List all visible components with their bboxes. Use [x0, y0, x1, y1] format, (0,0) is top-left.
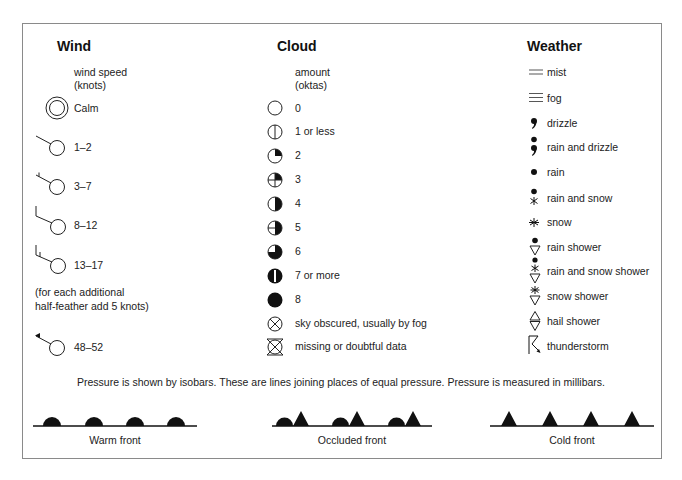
- wind-label-13-17: 13–17: [74, 259, 103, 272]
- weather-label-snow: snow: [547, 216, 572, 229]
- cloud-label-5: 5: [295, 221, 301, 234]
- wind-note-line2: half-feather add 5 knots): [35, 300, 149, 313]
- wind-barb-full-and-half-feather-icon: [34, 245, 68, 279]
- cloud-label-2: 2: [295, 149, 301, 162]
- cloud-4-oktas-icon: [267, 196, 283, 212]
- cloud-6-oktas-icon: [267, 244, 283, 260]
- warm-front-label: Warm front: [33, 434, 197, 446]
- weather-label-fog: fog: [547, 92, 562, 105]
- missing-data-icon: [267, 339, 283, 355]
- cloud-label-8: 8: [295, 293, 301, 306]
- cloud-3-oktas-icon: [267, 172, 283, 188]
- cold-front-label: Cold front: [490, 434, 654, 446]
- wind-barb-no-feather-icon: [34, 133, 68, 161]
- wind-barb-pennant-icon: [34, 333, 68, 361]
- cloud-heading: Cloud: [277, 38, 317, 54]
- wind-subtitle-line1: wind speed: [74, 66, 127, 79]
- cloud-7-oktas-icon: [267, 268, 283, 284]
- cloud-label-7: 7 or more: [295, 269, 340, 282]
- cloud-label-3: 3: [295, 173, 301, 186]
- wind-label-8-12: 8–12: [74, 219, 97, 232]
- occluded-front-icon: [272, 408, 432, 428]
- snow-shower-icon: [529, 286, 541, 306]
- wind-heading: Wind: [57, 38, 91, 54]
- weather-label-rain-and-snow-shower: rain and snow shower: [547, 265, 649, 278]
- rain-shower-icon: [529, 237, 541, 256]
- pressure-note: Pressure is shown by isobars. These are …: [0, 376, 682, 388]
- cloud-0-oktas-icon: [267, 100, 283, 116]
- cloud-label-1: 1 or less: [295, 125, 335, 138]
- snow-icon: [529, 218, 539, 227]
- cloud-label-4: 4: [295, 197, 301, 210]
- rain-and-snow-shower-icon: [529, 257, 541, 284]
- thunderstorm-icon: [528, 335, 542, 355]
- cold-front-icon: [490, 408, 654, 428]
- sky-obscured-icon: [267, 316, 283, 332]
- weather-label-rain-and-snow: rain and snow: [547, 192, 612, 205]
- weather-label-hail-shower: hail shower: [547, 315, 600, 328]
- rain-icon: [529, 168, 539, 176]
- wind-barb-full-feather-icon: [34, 206, 68, 240]
- cloud-label-0: 0: [295, 102, 301, 115]
- rain-and-drizzle-icon: [529, 136, 539, 158]
- fog-icon: [529, 92, 543, 103]
- mist-icon: [529, 68, 543, 76]
- wind-label-calm: Calm: [74, 102, 99, 115]
- cloud-subtitle-line1: amount: [295, 66, 330, 79]
- cloud-1-okta-icon: [267, 124, 283, 140]
- cloud-8-oktas-icon: [267, 292, 283, 308]
- weather-label-drizzle: drizzle: [547, 117, 577, 130]
- cloud-5-oktas-icon: [267, 220, 283, 236]
- drizzle-icon: [529, 117, 539, 130]
- wind-label-1-2: 1–2: [74, 141, 92, 154]
- cloud-2-oktas-icon: [267, 148, 283, 164]
- hail-shower-icon: [529, 311, 541, 331]
- weather-label-rain-shower: rain shower: [547, 241, 601, 254]
- wind-barb-half-feather-icon: [34, 172, 68, 200]
- cloud-subtitle-line2: (oktas): [295, 79, 327, 92]
- cloud-label-missing: missing or doubtful data: [295, 340, 406, 353]
- weather-label-mist: mist: [547, 66, 566, 79]
- weather-label-snow-shower: snow shower: [547, 290, 608, 303]
- rain-and-snow-icon: [529, 188, 539, 206]
- wind-subtitle-line2: (knots): [74, 79, 106, 92]
- weather-label-rain-and-drizzle: rain and drizzle: [547, 141, 618, 154]
- occluded-front-label: Occluded front: [272, 434, 432, 446]
- calm-double-circle-icon: [45, 96, 69, 120]
- warm-front-icon: [33, 410, 197, 428]
- weather-label-thunderstorm: thunderstorm: [547, 340, 609, 353]
- cloud-label-sky-obscured: sky obscured, usually by fog: [295, 317, 427, 330]
- weather-heading: Weather: [527, 38, 582, 54]
- weather-label-rain: rain: [547, 166, 565, 179]
- wind-label-3-7: 3–7: [74, 180, 92, 193]
- cloud-label-6: 6: [295, 245, 301, 258]
- wind-label-48-52: 48–52: [74, 341, 103, 354]
- wind-note-line1: (for each additional: [35, 286, 124, 299]
